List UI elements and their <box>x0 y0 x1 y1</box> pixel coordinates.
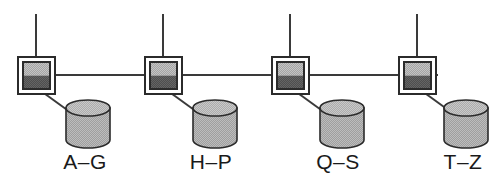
network-diagram: A–GH–PQ–ST–Z <box>0 0 499 175</box>
database-cylinder-server-1 <box>66 100 110 148</box>
server-box-screen-top <box>404 62 431 76</box>
cylinder-top-ellipse <box>66 100 110 116</box>
server-box-screen-bottom <box>23 76 50 90</box>
server-box-screen-bottom <box>150 76 177 90</box>
server-box-server-3[interactable] <box>272 57 309 94</box>
node-label-server-2: H–P <box>190 150 232 173</box>
node-label-server-1: A–G <box>63 150 107 173</box>
server-box-screen-top <box>150 62 177 76</box>
cylinder-top-ellipse <box>193 100 237 116</box>
server-box-server-1[interactable] <box>18 57 55 94</box>
server-box-screen-top <box>277 62 304 76</box>
node-label-server-4: T–Z <box>444 150 483 173</box>
server-box-server-2[interactable] <box>145 57 182 94</box>
server-box-screen-bottom <box>277 76 304 90</box>
database-cylinder-server-3 <box>320 100 364 148</box>
database-cylinder-group <box>66 100 488 148</box>
server-box-server-4[interactable] <box>399 57 436 94</box>
node-label-server-3: Q–S <box>316 150 360 173</box>
node-label-group: A–GH–PQ–ST–Z <box>63 150 482 173</box>
server-box-screen-bottom <box>404 76 431 90</box>
database-cylinder-server-2 <box>193 100 237 148</box>
cylinder-top-ellipse <box>320 100 364 116</box>
cylinder-top-ellipse <box>444 100 488 116</box>
diagram-canvas: A–GH–PQ–ST–Z <box>0 0 499 175</box>
uplink-stem-group <box>36 14 417 57</box>
server-box-screen-top <box>23 62 50 76</box>
database-cylinder-server-4 <box>444 100 488 148</box>
